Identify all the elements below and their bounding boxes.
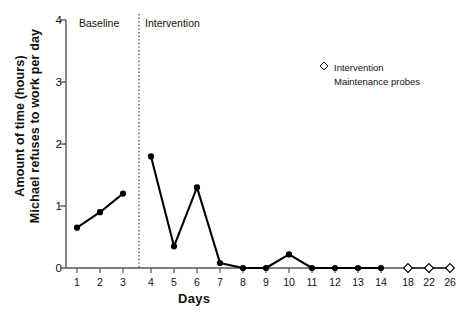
data-point-day-1 xyxy=(74,225,80,231)
data-point-day-8 xyxy=(240,265,246,271)
series-line-intervention xyxy=(151,156,381,268)
y-axis-ticks xyxy=(60,20,66,268)
data-point-day-12 xyxy=(332,265,338,271)
series-markers-maintenance-probes xyxy=(404,264,455,273)
data-point-day-14 xyxy=(378,265,384,271)
data-point-day-11 xyxy=(309,265,315,271)
data-point-day-13 xyxy=(355,265,361,271)
data-point-day-22 xyxy=(425,264,434,273)
data-point-day-2 xyxy=(97,209,103,215)
data-point-day-10 xyxy=(286,251,292,257)
data-point-day-6 xyxy=(194,184,200,190)
series-markers-intervention xyxy=(148,153,384,271)
data-point-day-7 xyxy=(217,260,223,266)
data-point-day-3 xyxy=(120,191,126,197)
data-point-day-9 xyxy=(263,265,269,271)
data-point-day-4 xyxy=(148,153,154,159)
data-point-day-18 xyxy=(404,264,413,273)
data-point-day-26 xyxy=(446,264,455,273)
data-point-day-5 xyxy=(171,243,177,249)
